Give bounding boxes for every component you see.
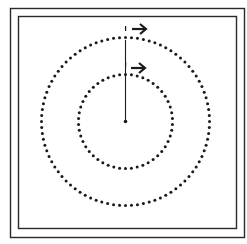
circle-dot — [141, 164, 144, 167]
circle-dot — [169, 49, 172, 52]
circle-dot — [81, 100, 84, 103]
circle-dot — [124, 36, 127, 39]
circle-dot — [61, 65, 64, 68]
circle-dot — [106, 202, 109, 205]
circle-dot — [53, 165, 56, 168]
circle-dot — [203, 91, 206, 94]
radius-tick-inner — [125, 62, 126, 67]
circle-dot — [130, 204, 133, 207]
circle-dot — [170, 129, 173, 132]
circle-dot — [207, 132, 210, 135]
circle-dot — [112, 166, 115, 169]
circle-dot — [136, 166, 139, 169]
circle-dot — [191, 70, 194, 73]
circle-dot — [74, 187, 77, 190]
circle-dot — [101, 79, 104, 82]
circle-dot — [84, 95, 87, 98]
circle-dot — [152, 158, 155, 161]
circle-dot — [88, 150, 91, 153]
circle-dot — [198, 80, 201, 83]
circle-dot — [198, 160, 201, 163]
circle-dot — [205, 144, 208, 147]
circle-dot — [65, 61, 68, 64]
circle-dot — [205, 96, 208, 99]
circle-dot — [208, 126, 211, 129]
circle-dot — [53, 75, 56, 78]
circle-dot — [130, 167, 133, 170]
circle-dot — [200, 155, 203, 158]
circle-dot — [124, 204, 127, 207]
circle-dot — [77, 117, 80, 120]
circle-dot — [78, 111, 81, 114]
circle-dot — [79, 135, 82, 138]
circle-dot — [45, 149, 48, 152]
circle-dot — [164, 194, 167, 197]
circle-dot — [130, 73, 133, 76]
circle-dot — [164, 95, 167, 98]
circle-dot — [112, 74, 115, 77]
circle-dot — [69, 57, 72, 60]
circle-dot — [107, 76, 110, 79]
circle-dot — [88, 90, 91, 93]
circle-dot — [147, 161, 150, 164]
circle-dot — [42, 102, 45, 105]
circle-dot — [124, 167, 127, 170]
circle-dot — [57, 170, 60, 173]
circle-dot — [57, 70, 60, 73]
circle-dot — [142, 38, 145, 41]
circle-dot — [100, 39, 103, 42]
circle-dot — [206, 138, 209, 141]
arrow-right-icon — [131, 63, 145, 73]
circle-dot — [41, 132, 44, 135]
circle-dot — [50, 160, 53, 163]
circle-dot — [174, 187, 177, 190]
circle-dot — [106, 38, 109, 41]
circle-dot — [96, 158, 99, 161]
circle-dot — [43, 144, 46, 147]
circle-dot — [79, 105, 82, 108]
circle-dot — [40, 114, 43, 117]
circle-dot — [169, 191, 172, 194]
circle-dot — [118, 167, 121, 170]
circle-dot — [43, 96, 46, 99]
circle-dot — [95, 199, 98, 202]
circle-dot — [118, 73, 121, 76]
circle-dot — [160, 90, 163, 93]
circle-dot — [92, 154, 95, 157]
circle-dot — [156, 86, 159, 89]
outer-frame — [11, 9, 245, 238]
circle-dot — [101, 161, 104, 164]
circle-dot — [153, 41, 156, 44]
circle-dot — [179, 183, 182, 186]
circle-dot — [195, 165, 198, 168]
circle-dot — [208, 120, 211, 123]
circle-dot — [171, 117, 174, 120]
circle-dot — [130, 36, 133, 39]
circle-dot — [118, 36, 121, 39]
circle-dot — [169, 135, 172, 138]
circle-dot — [95, 41, 98, 44]
center-point-icon — [124, 120, 128, 124]
circle-dot — [171, 123, 174, 126]
circle-dot — [167, 140, 170, 143]
circle-dot — [170, 111, 173, 114]
circle-dot — [48, 85, 51, 88]
circle-dot — [61, 175, 64, 178]
circle-dot — [89, 196, 92, 199]
circle-dot — [164, 145, 167, 148]
circle-dot — [187, 175, 190, 178]
circle-dot — [136, 37, 139, 40]
circle-dot — [65, 179, 68, 182]
circle-dot — [112, 203, 115, 206]
circle-dot — [96, 82, 99, 85]
circle-dot — [159, 44, 162, 47]
circle-dot — [167, 100, 170, 103]
circle-dot — [207, 108, 210, 111]
circle-dot — [41, 108, 44, 111]
circle-dot — [84, 46, 87, 49]
circle-dot — [200, 85, 203, 88]
radius-tick-outer — [125, 26, 126, 31]
circle-dot — [81, 140, 84, 143]
circle-dot — [84, 194, 87, 197]
circle-dot — [152, 82, 155, 85]
